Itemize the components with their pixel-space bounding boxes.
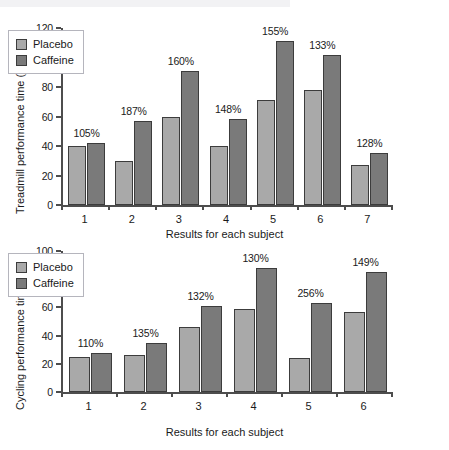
legend-label-caffeine: Caffeine	[33, 54, 74, 66]
y-axis-tick-mark	[56, 306, 61, 308]
y-axis-tick: 60	[31, 301, 61, 313]
y-axis-tick: 40	[31, 330, 61, 342]
x-axis-tick-mark	[391, 392, 393, 397]
x-axis-tick-label: 2	[129, 213, 135, 225]
bar-percent-annotation: 130%	[242, 252, 268, 264]
x-axis-tick-mark	[155, 205, 157, 210]
bar-percent-annotation: 110%	[78, 337, 103, 349]
bar-placebo	[344, 312, 365, 392]
y-axis-tick: 0	[31, 199, 61, 211]
bar-caffeine	[134, 121, 152, 205]
x-axis-tick-label: 2	[140, 400, 146, 412]
bar-caffeine	[323, 55, 341, 205]
bar-caffeine	[229, 119, 247, 205]
bar-percent-annotation: 128%	[356, 137, 382, 149]
treadmill-legend: Placebo Caffeine	[8, 30, 84, 74]
y-axis-tick-mark	[56, 27, 61, 29]
bar-placebo	[68, 146, 86, 205]
bar-caffeine	[276, 41, 294, 205]
y-axis-tick-label: 40	[31, 140, 56, 152]
cycling-chart: Cycling performance time (min) Results f…	[0, 240, 449, 450]
legend-row-caffeine: Caffeine	[16, 275, 74, 291]
bar-placebo	[351, 165, 369, 205]
x-axis-tick-mark	[336, 392, 338, 397]
bar-caffeine	[256, 268, 277, 392]
x-axis-tick-mark	[391, 205, 393, 210]
x-axis-tick-label: 6	[317, 213, 323, 225]
legend-label-caffeine: Caffeine	[33, 277, 74, 289]
y-axis-tick-label: 0	[31, 386, 56, 398]
x-axis-tick-label: 6	[360, 400, 366, 412]
y-axis-tick-label: 60	[31, 111, 56, 123]
x-axis-tick-label: 3	[176, 213, 182, 225]
x-axis-tick-mark	[226, 392, 228, 397]
bar-placebo	[69, 357, 90, 392]
bar-percent-annotation: 149%	[352, 256, 378, 268]
y-axis-tick-label: 20	[31, 358, 56, 370]
bar-caffeine	[91, 353, 112, 392]
y-axis-tick-label: 60	[31, 301, 56, 313]
y-axis-tick: 0	[31, 386, 61, 398]
bar-caffeine	[311, 303, 332, 392]
treadmill-y-axis-title: Treadmill performance time (min)	[14, 52, 26, 214]
y-axis-tick: 20	[31, 358, 61, 370]
bar-placebo	[162, 117, 180, 206]
y-axis-tick: 80	[31, 81, 61, 93]
cycling-legend: Placebo Caffeine	[8, 253, 84, 297]
bar-placebo	[179, 327, 200, 392]
x-axis-tick-mark	[116, 392, 118, 397]
figure-page: Treadmill performance time (min) Results…	[0, 0, 449, 450]
bar-placebo	[289, 358, 310, 392]
y-axis-tick: 40	[31, 140, 61, 152]
cycling-plot-area: 0204060801001110%2135%3132%4130%5256%614…	[61, 251, 391, 392]
bar-caffeine	[201, 306, 222, 392]
x-axis-tick-mark	[61, 205, 63, 210]
legend-row-caffeine: Caffeine	[16, 52, 74, 68]
y-axis-tick-label: 80	[31, 81, 56, 93]
bar-percent-annotation: 148%	[215, 103, 241, 115]
x-axis-tick-label: 1	[85, 400, 91, 412]
y-axis-tick-mark	[56, 116, 61, 118]
y-axis-tick: 20	[31, 170, 61, 182]
x-axis-tick-label: 3	[195, 400, 201, 412]
bar-percent-annotation: 160%	[168, 55, 194, 67]
bar-caffeine	[366, 272, 387, 392]
bar-percent-annotation: 187%	[121, 105, 147, 117]
bar-placebo	[210, 146, 228, 205]
legend-label-placebo: Placebo	[33, 261, 73, 273]
y-axis-tick-mark	[56, 175, 61, 177]
y-axis-tick-mark	[56, 363, 61, 365]
bar-caffeine	[181, 71, 199, 205]
legend-row-placebo: Placebo	[16, 259, 74, 275]
x-axis-tick-mark	[61, 392, 63, 397]
bar-percent-annotation: 256%	[297, 287, 323, 299]
y-axis-tick: 60	[31, 111, 61, 123]
treadmill-chart: Treadmill performance time (min) Results…	[0, 14, 449, 230]
bar-placebo	[115, 161, 133, 205]
placebo-swatch-icon	[16, 39, 27, 50]
bar-placebo	[257, 100, 275, 205]
caffeine-swatch-icon	[16, 55, 27, 66]
y-axis-tick-label: 20	[31, 170, 56, 182]
y-axis-tick-label: 0	[31, 199, 56, 211]
x-axis-tick-mark	[297, 205, 299, 210]
legend-label-placebo: Placebo	[33, 38, 73, 50]
x-axis-tick-label: 4	[250, 400, 256, 412]
x-axis-tick-label: 4	[223, 213, 229, 225]
x-axis-tick-label: 5	[270, 213, 276, 225]
bar-percent-annotation: 133%	[309, 39, 335, 51]
caffeine-swatch-icon	[16, 278, 27, 289]
treadmill-plot-area: 0204060801001201105%2187%3160%4148%5155%…	[61, 28, 391, 205]
x-axis-tick-mark	[108, 205, 110, 210]
x-axis-tick-mark	[171, 392, 173, 397]
y-axis-tick-label: 40	[31, 330, 56, 342]
bar-placebo	[304, 90, 322, 205]
treadmill-x-axis-title: Results for each subject	[0, 228, 449, 240]
bar-placebo	[124, 355, 145, 392]
bar-caffeine	[87, 143, 105, 205]
x-axis-tick-mark	[344, 205, 346, 210]
x-axis-tick-mark	[250, 205, 252, 210]
y-axis-tick-mark	[56, 86, 61, 88]
bar-percent-annotation: 132%	[187, 290, 213, 302]
y-axis-tick-mark	[56, 335, 61, 337]
